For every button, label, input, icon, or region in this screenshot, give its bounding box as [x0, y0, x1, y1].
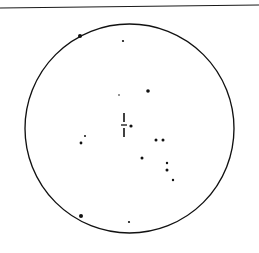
star-upper-right-mid — [146, 89, 150, 93]
star-left-mid — [80, 142, 83, 145]
star-lower-center — [141, 157, 144, 160]
top-rule-group — [0, 5, 259, 8]
star-lower-right-upper — [166, 162, 168, 164]
star-left-mid-faint — [84, 135, 86, 137]
figure-canvas — [0, 0, 259, 253]
field-of-view-circle — [25, 24, 234, 233]
star-center-right-dot — [129, 124, 132, 127]
star-dots-group — [78, 34, 174, 223]
star-chart-figure — [0, 0, 259, 253]
star-lower-right-lower — [166, 169, 169, 172]
star-bottom-center-faint — [128, 221, 130, 223]
star-upper-mid-faint — [122, 40, 124, 42]
center-marker-group — [121, 113, 127, 137]
star-lower-right-faint — [172, 179, 174, 181]
field-circle-group — [25, 24, 234, 233]
star-right-pair-right — [162, 139, 165, 142]
star-upper-center-faint — [118, 94, 120, 96]
top-separator-rule — [0, 5, 259, 8]
star-bottom-left-bright — [79, 214, 83, 218]
star-upper-left-bright — [78, 34, 82, 38]
star-right-pair-left — [155, 139, 158, 142]
